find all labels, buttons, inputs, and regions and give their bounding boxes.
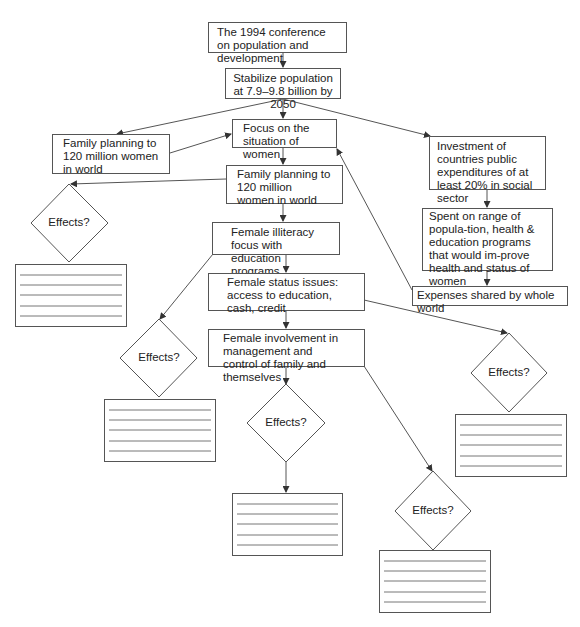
- node-stabilize: Stabilize population at 7.9–9.8 billion …: [225, 68, 341, 99]
- node-female-illiteracy: Female illiteracy focus with education p…: [212, 222, 340, 255]
- decision-label-5: Effects?: [393, 504, 473, 516]
- node-conference: The 1994 conference on population and de…: [208, 22, 347, 53]
- decision-label-3: Effects?: [246, 416, 326, 428]
- decision-label-4: Effects?: [469, 366, 549, 378]
- node-family-planning-left: Family planning to 120 million women in …: [52, 134, 170, 174]
- decision-label-2: Effects?: [119, 351, 199, 363]
- node-female-involvement: Female involvement in management and con…: [208, 329, 365, 367]
- node-focus-women: Focus on the situation of women: [232, 119, 337, 148]
- node-text: Female status issues: access to educatio…: [227, 276, 338, 314]
- node-text: Family planning to 120 million women in …: [237, 168, 330, 206]
- node-expenses-shared: Expenses shared by whole world: [412, 286, 568, 306]
- node-spent-range: Spent on range of popula-tion, health & …: [422, 208, 553, 271]
- node-female-status: Female status issues: access to educatio…: [208, 273, 365, 311]
- node-family-planning-center: Family planning to 120 million women in …: [226, 165, 343, 204]
- decision-label-1: Effects?: [29, 216, 109, 228]
- node-text: Family planning to 120 million women in …: [63, 137, 158, 175]
- node-investment: Investment of countries public expenditu…: [429, 136, 546, 190]
